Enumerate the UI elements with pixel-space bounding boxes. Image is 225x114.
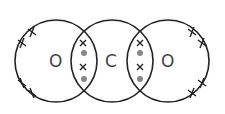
atom-label-c: C <box>105 51 117 71</box>
left-lone-pairs <box>18 27 36 98</box>
atom-label-o-left: O <box>49 51 62 71</box>
co2-diagram: O C O <box>0 0 225 114</box>
left-bond-electrons <box>80 40 87 82</box>
atom-label-o-right: O <box>161 51 174 71</box>
right-lone-pairs <box>188 27 206 98</box>
right-bond-electrons <box>137 40 143 82</box>
